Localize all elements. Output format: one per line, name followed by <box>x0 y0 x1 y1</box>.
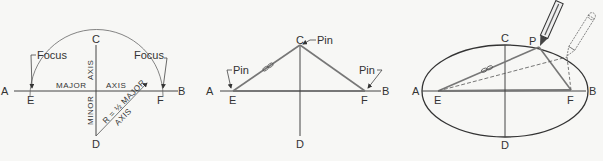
point-a: A <box>1 85 9 97</box>
pin-left-leader <box>227 70 232 88</box>
point-a: A <box>206 85 214 97</box>
point-d: D <box>92 138 100 150</box>
panel-step-2: Pin Pin Pin A E C D F B <box>206 34 389 150</box>
point-e: E <box>229 94 236 106</box>
major-axis-label: AXIS <box>106 81 126 90</box>
pin-top-leader <box>303 40 316 44</box>
point-b: B <box>382 85 389 97</box>
point-b: B <box>589 85 596 97</box>
point-f: F <box>567 94 574 106</box>
string-ep <box>438 47 539 91</box>
focus-right-leader <box>163 58 167 88</box>
pencil-ghost-icon <box>564 11 597 58</box>
panel-step-3: A E C P D F B <box>412 1 597 151</box>
point-f: F <box>157 94 164 106</box>
panel-step-1: Focus Focus MAJOR AXIS AXIS MINOR R = ½ … <box>1 29 185 150</box>
point-e: E <box>27 94 34 106</box>
pencil-icon <box>536 1 563 48</box>
point-e: E <box>434 94 441 106</box>
point-d: D <box>501 139 509 151</box>
pin-left-label: Pin <box>233 64 249 76</box>
diagram-canvas: Focus Focus MAJOR AXIS AXIS MINOR R = ½ … <box>0 0 603 161</box>
major-label: MAJOR <box>56 81 87 90</box>
point-b: B <box>178 85 185 97</box>
point-c: C <box>501 32 509 44</box>
point-p: P <box>529 35 536 47</box>
minor-label: MINOR <box>86 96 95 125</box>
point-c: C <box>92 33 100 45</box>
string-cf <box>300 45 365 91</box>
minor-axis-top-label: AXIS <box>86 60 95 80</box>
point-f: F <box>361 94 368 106</box>
point-d: D <box>296 138 304 150</box>
string-pf <box>539 47 571 90</box>
ellipse-construction-figure: Focus Focus MAJOR AXIS AXIS MINOR R = ½ … <box>0 0 603 161</box>
focus-right-label: Focus <box>134 49 164 61</box>
pin-right-label: Pin <box>359 64 375 76</box>
pin-top-label: Pin <box>317 34 333 46</box>
focus-left-label: Focus <box>37 49 67 61</box>
point-a: A <box>412 85 420 97</box>
point-c: C <box>296 34 304 46</box>
focus-left-leader <box>31 55 36 88</box>
